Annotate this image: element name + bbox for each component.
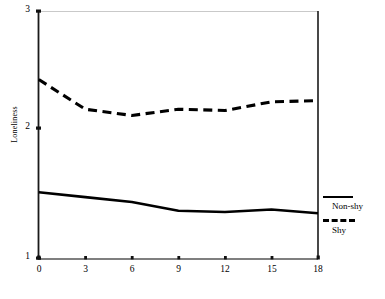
x-tick-label-9: 9	[168, 264, 190, 274]
series-line-shy	[39, 80, 318, 116]
x-tick-label-3: 3	[75, 264, 97, 274]
legend-label-non-shy: Non-shy	[332, 201, 384, 211]
legend-swatch-solid-icon	[323, 196, 353, 198]
loneliness-line-chart: Loneliness 3 2 1 0 3 6 9 12 15 18 Non-sh…	[0, 0, 385, 299]
legend-entry-shy: Shy	[322, 219, 384, 235]
y-tick-label-3: 3	[16, 4, 30, 14]
x-tick-label-12: 12	[214, 264, 236, 274]
x-tick-label-18: 18	[307, 264, 329, 274]
legend-label-shy: Shy	[332, 225, 384, 235]
y-tick-label-2: 2	[16, 121, 30, 131]
chart-canvas	[0, 0, 385, 299]
y-tick-label-1: 1	[16, 251, 30, 261]
x-tick-label-0: 0	[28, 264, 50, 274]
legend-swatch-dashed-icon	[323, 219, 355, 222]
legend-entry-non-shy: Non-shy	[322, 196, 384, 211]
series-line-non-shy	[39, 192, 318, 213]
x-tick-label-15: 15	[261, 264, 283, 274]
x-tick-label-6: 6	[121, 264, 143, 274]
chart-legend: Non-shy Shy	[322, 196, 384, 243]
